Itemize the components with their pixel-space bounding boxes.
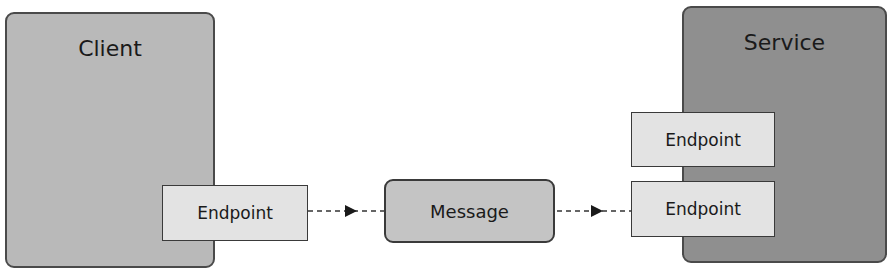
arrowhead-icon: [591, 205, 603, 217]
arrowhead-icon: [345, 205, 357, 217]
connector-lines: [0, 0, 890, 275]
